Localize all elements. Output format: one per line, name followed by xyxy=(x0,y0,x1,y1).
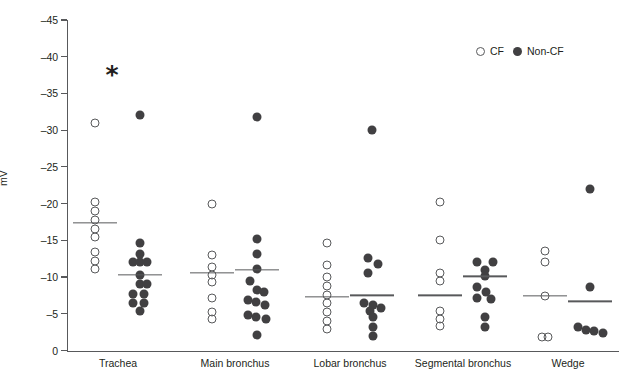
data-point-cf xyxy=(91,198,100,207)
filled-circle-icon xyxy=(513,47,522,56)
data-point-cf xyxy=(323,308,332,317)
y-axis-tick xyxy=(61,276,67,277)
data-point-non-cf xyxy=(487,295,496,304)
data-point-non-cf xyxy=(590,327,599,336)
mean-line-cf xyxy=(305,296,349,297)
mean-line-cf xyxy=(418,295,462,296)
chart-legend: CF Non-CF xyxy=(476,45,564,57)
data-point-non-cf xyxy=(481,312,490,321)
data-point-cf xyxy=(91,224,100,233)
legend-item-non-cf: Non-CF xyxy=(513,45,564,57)
data-point-cf xyxy=(436,322,445,331)
data-point-cf xyxy=(91,248,100,257)
y-axis-title: mV xyxy=(0,170,9,186)
mean-line-non-cf xyxy=(118,274,162,275)
data-point-cf xyxy=(208,293,217,302)
mean-line-cf xyxy=(523,295,567,296)
mean-line-non-cf xyxy=(235,269,279,270)
y-axis-tick xyxy=(61,130,67,131)
legend-label-cf: CF xyxy=(490,45,504,57)
mean-line-cf xyxy=(190,272,234,273)
y-axis-tick-label: –5 xyxy=(24,308,58,320)
data-point-non-cf xyxy=(374,259,383,268)
data-point-non-cf xyxy=(369,313,378,322)
data-point-non-cf xyxy=(129,289,138,298)
data-point-non-cf xyxy=(364,253,373,262)
data-point-non-cf xyxy=(260,287,269,296)
y-axis-tick xyxy=(61,240,67,241)
x-axis-group-label: Wedge xyxy=(551,357,584,369)
mean-line-non-cf xyxy=(568,301,612,302)
data-point-non-cf xyxy=(473,258,482,267)
data-point-non-cf xyxy=(140,289,149,298)
data-point-cf xyxy=(91,233,100,242)
data-point-non-cf xyxy=(143,280,152,289)
data-point-cf xyxy=(208,251,217,260)
y-axis-tick-label: –35 xyxy=(24,87,58,99)
data-point-non-cf xyxy=(599,328,608,337)
data-point-non-cf xyxy=(262,314,271,323)
data-point-non-cf xyxy=(253,112,262,121)
data-point-cf xyxy=(436,277,445,286)
data-point-cf xyxy=(323,299,332,308)
data-point-non-cf xyxy=(136,306,145,315)
data-point-cf xyxy=(91,118,100,127)
data-point-non-cf xyxy=(369,331,378,340)
data-point-cf xyxy=(436,198,445,207)
data-point-cf xyxy=(323,325,332,334)
data-point-non-cf xyxy=(136,239,145,248)
data-point-cf xyxy=(323,261,332,270)
data-point-cf xyxy=(208,278,217,287)
data-point-non-cf xyxy=(364,269,373,278)
y-axis-tick xyxy=(61,93,67,94)
data-point-non-cf xyxy=(136,111,145,120)
y-axis-tick-label: 0 xyxy=(24,345,58,357)
data-point-non-cf xyxy=(252,312,261,321)
significance-asterisk-icon: * xyxy=(105,62,118,87)
data-point-non-cf xyxy=(473,293,482,302)
y-axis-tick-label: –45 xyxy=(24,14,58,26)
data-point-non-cf xyxy=(586,184,595,193)
data-point-non-cf xyxy=(481,322,490,331)
data-point-cf xyxy=(323,290,332,299)
y-axis-tick xyxy=(61,203,67,204)
data-point-non-cf xyxy=(377,303,386,312)
y-axis-tick xyxy=(61,56,67,57)
data-point-cf xyxy=(323,273,332,282)
data-point-non-cf xyxy=(252,298,261,307)
data-point-cf xyxy=(208,314,217,323)
open-circle-icon xyxy=(476,47,485,56)
data-point-cf xyxy=(436,236,445,245)
data-point-non-cf xyxy=(129,298,138,307)
data-point-non-cf xyxy=(261,300,270,309)
y-axis-tick xyxy=(61,19,67,20)
scatter-plot-figure: mV 0–5–10–15–20–25–30–35–40–45 TracheaMa… xyxy=(0,0,626,384)
y-axis-tick-label: –20 xyxy=(24,198,58,210)
mean-line-non-cf xyxy=(463,276,507,277)
x-axis-group-label: Main bronchus xyxy=(201,357,270,369)
mean-line-cf xyxy=(73,222,117,223)
data-point-non-cf xyxy=(253,331,262,340)
mean-line-non-cf xyxy=(350,295,394,296)
data-point-cf xyxy=(541,258,550,267)
data-point-non-cf xyxy=(369,322,378,331)
data-point-non-cf xyxy=(143,258,152,267)
y-axis-tick xyxy=(61,166,67,167)
y-axis-line xyxy=(67,20,68,351)
y-axis-tick-label: –40 xyxy=(24,51,58,63)
data-point-non-cf xyxy=(489,258,498,267)
data-point-cf xyxy=(208,199,217,208)
data-point-cf xyxy=(544,333,553,342)
data-point-non-cf xyxy=(473,282,482,291)
data-point-non-cf xyxy=(253,249,262,258)
data-point-non-cf xyxy=(368,126,377,135)
data-point-non-cf xyxy=(253,234,262,243)
y-axis-tick xyxy=(61,350,67,351)
legend-label-non-cf: Non-CF xyxy=(527,45,564,57)
y-axis-tick-label: –25 xyxy=(24,161,58,173)
data-point-cf xyxy=(323,281,332,290)
data-point-non-cf xyxy=(246,277,255,286)
y-axis-tick xyxy=(61,313,67,314)
data-point-non-cf xyxy=(136,249,145,258)
data-point-cf xyxy=(541,247,550,256)
